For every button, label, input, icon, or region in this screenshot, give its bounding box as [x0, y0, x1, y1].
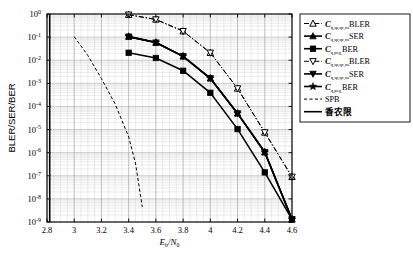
svg-text:3.2: 3.2	[96, 225, 107, 235]
svg-text:10-4: 10-4	[28, 101, 42, 111]
svg-text:BLER/SER/BER: BLER/SER/BER	[6, 83, 17, 152]
svg-text:10-7: 10-7	[28, 171, 42, 181]
svg-text:10-1: 10-1	[28, 32, 42, 42]
svg-text:4.4: 4.4	[259, 225, 270, 235]
chart-root: 2.833.23.43.63.844.24.44.6 10010-110-210…	[0, 0, 413, 260]
svg-text:10-5: 10-5	[28, 124, 42, 134]
svg-text:SPB: SPB	[325, 95, 340, 104]
svg-text:3: 3	[72, 225, 76, 235]
ber-performance-chart: 2.833.23.43.63.844.24.44.6 10010-110-210…	[0, 0, 413, 260]
plot-area-container: 2.833.23.43.63.844.24.44.6 10010-110-210…	[0, 0, 413, 260]
svg-text:4.2: 4.2	[232, 225, 243, 235]
svg-text:3.8: 3.8	[178, 225, 189, 235]
svg-text:10-9: 10-9	[28, 217, 42, 227]
data-curves	[50, 14, 292, 222]
svg-text:2.8: 2.8	[42, 225, 53, 235]
svg-text:10-6: 10-6	[28, 147, 42, 157]
svg-text:10-2: 10-2	[28, 55, 42, 65]
svg-text:100: 100	[30, 9, 42, 19]
minor-gridlines	[47, 14, 292, 222]
svg-text:4.6: 4.6	[287, 225, 298, 235]
svg-text:3.4: 3.4	[123, 225, 134, 235]
svg-text:香农限: 香农限	[324, 106, 352, 117]
svg-text:4: 4	[208, 225, 213, 235]
svg-text:3.6: 3.6	[151, 225, 162, 235]
svg-text:10-8: 10-8	[28, 194, 42, 204]
chart-legend: Cq,sp,qc,nsBLERCq,sp,qc,nsSERCq,peg,BERC…	[300, 14, 410, 122]
svg-text:Eb/N0: Eb/N0	[158, 237, 179, 248]
svg-text:10-3: 10-3	[28, 78, 42, 88]
